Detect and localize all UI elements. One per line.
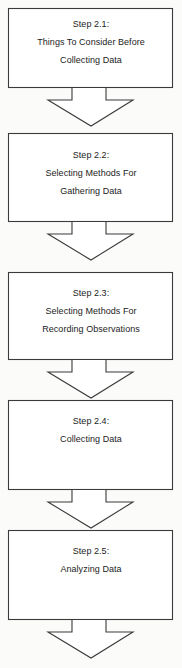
connector-arrow-5 <box>48 620 133 658</box>
step-line: Selecting Methods For <box>45 168 136 178</box>
step-heading: Step 2.2: <box>73 150 109 160</box>
flow-step-step-2-3: Step 2.3: Selecting Methods For Recordin… <box>9 273 173 360</box>
arrow-down-icon <box>48 360 133 398</box>
step-box <box>9 273 173 360</box>
step-box <box>9 401 173 490</box>
step-line: Things To Consider Before <box>37 37 145 47</box>
arrow-down-icon <box>48 88 133 126</box>
step-line: Analyzing Data <box>60 564 121 574</box>
step-heading: Step 2.4: <box>73 416 109 426</box>
connector-arrow-4 <box>48 490 133 528</box>
step-heading: Step 2.5: <box>73 546 109 556</box>
connector-arrow-2 <box>48 222 133 260</box>
step-heading: Step 2.1: <box>73 19 109 29</box>
step-heading: Step 2.3: <box>73 288 109 298</box>
step-box <box>9 531 173 620</box>
flowchart-diagram: Step 2.1: Things To Consider Before Coll… <box>0 0 182 668</box>
connector-arrow-1 <box>48 88 133 126</box>
arrow-down-icon <box>48 222 133 260</box>
arrow-down-icon <box>48 490 133 528</box>
step-line: Collecting Data <box>60 434 122 444</box>
step-line: Selecting Methods For <box>45 306 136 316</box>
flow-step-step-2-2: Step 2.2: Selecting Methods For Gatherin… <box>9 134 173 222</box>
flow-step-step-2-4: Step 2.4: Collecting Data <box>9 401 173 490</box>
step-line: Collecting Data <box>60 55 122 65</box>
step-line: Recording Observations <box>42 324 140 334</box>
arrow-down-icon <box>48 620 133 658</box>
flow-step-step-2-1: Step 2.1: Things To Consider Before Coll… <box>9 9 173 88</box>
connector-arrow-3 <box>48 360 133 398</box>
step-line: Gathering Data <box>60 186 122 196</box>
flow-step-step-2-5: Step 2.5: Analyzing Data <box>9 531 173 620</box>
